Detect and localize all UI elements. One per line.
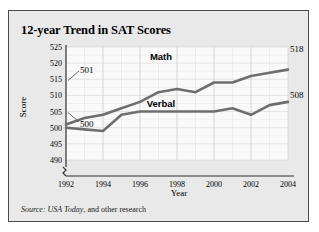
figure-panel: 12-year Trend in SAT Scores (8, 10, 309, 222)
annotation-math-start: 501 (80, 65, 94, 75)
screenshot-root: 12-year Trend in SAT Scores (0, 0, 319, 232)
y-tick-label: 505 (50, 108, 62, 117)
series-label-math: Math (150, 51, 172, 62)
axis-break-icon (63, 167, 66, 176)
page-title: 12-year Trend in SAT Scores (21, 23, 171, 38)
x-tick-label: 1992 (58, 180, 74, 189)
y-tick-label: 490 (50, 156, 62, 165)
y-axis-title: Score (18, 97, 28, 118)
source-rest: , and other research (83, 205, 146, 214)
annotation-math-end: 518 (290, 44, 304, 54)
x-tick-label: 2002 (243, 180, 259, 189)
x-tick-label: 1994 (95, 180, 111, 189)
x-axis-title: Year (171, 188, 188, 196)
y-tick-label: 515 (50, 75, 62, 84)
y-tick-label: 510 (50, 91, 62, 100)
chart-plot-area: 525 520 515 510 505 500 495 490 1992 199… (9, 41, 308, 196)
y-tick-label: 500 (50, 124, 62, 133)
y-tick-label: 495 (50, 140, 62, 149)
source-lead: Source: (21, 205, 46, 214)
annotation-verbal-end: 508 (290, 90, 304, 100)
source-publication: USA Today (48, 205, 84, 214)
series-label-verbal: Verbal (147, 98, 176, 109)
sat-trend-line-chart: 525 520 515 510 505 500 495 490 1992 199… (9, 41, 308, 196)
x-tick-label: 2004 (280, 180, 296, 189)
annotation-verbal-start: 500 (80, 119, 94, 129)
y-tick-label: 525 (50, 43, 62, 52)
x-tick-label: 2000 (206, 180, 222, 189)
x-tick-label: 1996 (132, 180, 148, 189)
y-axis-tick-labels: 525 520 515 510 505 500 495 490 (50, 43, 62, 165)
source-note: Source: USA Today, and other research (21, 205, 146, 214)
y-tick-label: 520 (50, 59, 62, 68)
